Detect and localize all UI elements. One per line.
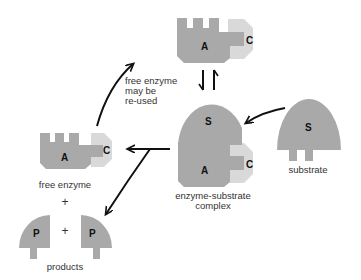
letter-a-top: A [201, 41, 208, 52]
products: P P + products [19, 215, 112, 272]
complex-label-line2: complex [195, 200, 231, 211]
substrate-label: substrate [288, 164, 327, 175]
substrate: S substrate [277, 99, 341, 175]
letter-p-right: P [89, 228, 96, 239]
enzyme-substrate-complex: S A C enzyme-substrate complex [175, 104, 253, 211]
letter-a-complex: A [201, 165, 208, 176]
letter-s-complex: S [205, 116, 212, 127]
free-enzyme: A C free enzyme [39, 133, 112, 190]
reuse-note-line3: re-used [125, 95, 157, 106]
arrow-release-products [106, 149, 150, 214]
letter-p-left: P [33, 228, 40, 239]
plus-sign-1: + [61, 195, 68, 209]
products-label: products [47, 261, 84, 272]
equilibrium-arrows [199, 70, 218, 90]
letter-c-top: C [246, 35, 253, 46]
enzyme-top: A C [177, 18, 253, 63]
letter-c-free: C [103, 145, 110, 156]
free-enzyme-label: free enzyme [39, 179, 91, 190]
letter-a-free: A [61, 152, 68, 163]
plus-sign-2: + [61, 224, 68, 238]
product-right [81, 215, 112, 248]
letter-c-complex: C [246, 159, 253, 170]
letter-s-substrate: S [305, 122, 312, 133]
enzyme-diagram: A C S A C enzyme-substrate complex S sub… [0, 0, 361, 280]
arrow-substrate-binding [246, 108, 285, 123]
